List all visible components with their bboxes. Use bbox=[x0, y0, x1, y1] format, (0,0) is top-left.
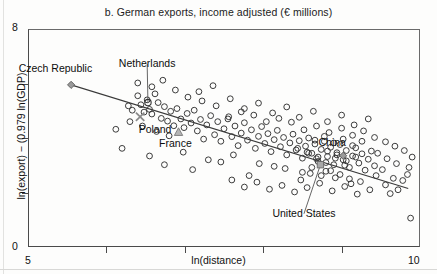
data-point bbox=[184, 111, 190, 117]
trendline-group bbox=[71, 85, 408, 189]
data-point bbox=[218, 159, 224, 165]
data-point bbox=[339, 125, 345, 131]
data-point bbox=[379, 167, 385, 173]
annotation-label-poland: Poland bbox=[139, 123, 172, 135]
data-point bbox=[155, 100, 161, 106]
data-point bbox=[198, 117, 204, 123]
data-point bbox=[339, 112, 345, 118]
data-point bbox=[395, 187, 401, 193]
data-point bbox=[359, 151, 365, 157]
data-point bbox=[218, 138, 224, 144]
y-tick-label-max: 8 bbox=[12, 21, 18, 33]
data-point bbox=[307, 171, 313, 177]
data-point bbox=[212, 132, 218, 138]
data-point bbox=[350, 132, 356, 138]
data-point bbox=[287, 140, 293, 146]
data-point bbox=[394, 161, 400, 167]
page-bottom-rule bbox=[0, 269, 437, 270]
data-point bbox=[171, 123, 177, 129]
x-tick bbox=[106, 247, 107, 253]
data-point bbox=[306, 135, 312, 141]
data-point bbox=[383, 182, 389, 188]
data-point bbox=[265, 131, 271, 137]
data-point bbox=[129, 107, 135, 113]
x-tick bbox=[342, 247, 343, 253]
data-point bbox=[235, 143, 241, 149]
data-point bbox=[162, 104, 168, 110]
data-point bbox=[229, 177, 235, 183]
data-point bbox=[300, 169, 306, 175]
data-point bbox=[309, 165, 315, 171]
annotation-label-france: France bbox=[159, 137, 192, 149]
annotation-label-china: China bbox=[318, 136, 345, 148]
data-point bbox=[383, 139, 389, 145]
data-point bbox=[213, 103, 219, 109]
data-point bbox=[367, 187, 373, 193]
data-point bbox=[405, 172, 411, 178]
data-point bbox=[284, 152, 290, 158]
data-point bbox=[172, 87, 178, 93]
x-tick bbox=[263, 247, 264, 253]
page-title: b. German exports, income adjusted (€ mi… bbox=[0, 6, 437, 18]
data-point bbox=[274, 127, 280, 133]
data-point bbox=[249, 127, 255, 133]
data-point bbox=[372, 163, 378, 169]
data-point bbox=[365, 116, 371, 122]
page-left-rule bbox=[3, 0, 4, 274]
data-point bbox=[196, 89, 202, 95]
data-point bbox=[406, 165, 412, 171]
data-point bbox=[259, 124, 265, 130]
data-point bbox=[325, 154, 331, 160]
data-point bbox=[254, 179, 260, 185]
data-point bbox=[310, 108, 316, 114]
data-point bbox=[251, 112, 257, 118]
data-point bbox=[267, 186, 273, 192]
data-point bbox=[284, 104, 290, 110]
data-point bbox=[281, 135, 287, 141]
data-point bbox=[271, 137, 277, 143]
data-point bbox=[241, 184, 247, 190]
data-point bbox=[190, 167, 196, 173]
data-point bbox=[390, 175, 396, 181]
data-point bbox=[292, 189, 298, 195]
data-point bbox=[359, 138, 365, 144]
data-point bbox=[301, 127, 307, 133]
data-point bbox=[295, 145, 301, 151]
data-point bbox=[325, 119, 331, 125]
data-point bbox=[149, 111, 155, 117]
data-point bbox=[314, 123, 320, 129]
data-point bbox=[210, 83, 216, 89]
data-point bbox=[312, 137, 318, 143]
data-point bbox=[201, 136, 207, 142]
highlight-marker-czech-republic bbox=[68, 81, 75, 88]
data-point bbox=[276, 115, 282, 121]
data-point bbox=[191, 107, 197, 113]
data-point bbox=[409, 154, 415, 160]
x-tick bbox=[185, 247, 186, 253]
highlight-marker-united-states bbox=[317, 162, 323, 168]
data-point bbox=[298, 177, 304, 183]
data-point bbox=[354, 191, 360, 197]
data-point bbox=[270, 110, 276, 116]
data-point bbox=[271, 163, 277, 169]
data-point bbox=[384, 156, 390, 162]
data-point bbox=[375, 150, 381, 156]
data-point bbox=[158, 115, 164, 121]
data-point bbox=[268, 149, 274, 155]
data-point bbox=[227, 96, 233, 102]
data-point bbox=[152, 91, 158, 97]
data-point bbox=[279, 183, 285, 189]
data-point bbox=[135, 80, 141, 86]
data-point bbox=[215, 119, 221, 125]
data-point bbox=[162, 162, 168, 168]
data-point bbox=[358, 179, 364, 185]
data-point bbox=[342, 184, 348, 190]
data-point bbox=[289, 119, 295, 125]
y-tick-label-min: 0 bbox=[12, 240, 18, 252]
data-point bbox=[351, 122, 357, 128]
data-point bbox=[238, 130, 244, 136]
data-point bbox=[147, 153, 153, 159]
data-point bbox=[304, 185, 310, 191]
data-point bbox=[337, 172, 343, 178]
data-point bbox=[317, 180, 323, 186]
